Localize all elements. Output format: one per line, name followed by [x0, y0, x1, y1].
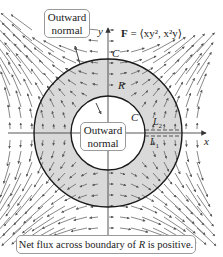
field-arrow	[197, 140, 198, 148]
field-arrow	[13, 217, 32, 234]
field-arrow	[197, 151, 200, 164]
field-arrow	[48, 53, 65, 63]
field-arrow	[186, 34, 205, 52]
x-axis-label: x	[204, 136, 209, 147]
field-arrow	[14, 206, 32, 225]
field-arrow	[186, 217, 205, 235]
field-arrow	[31, 69, 43, 85]
field-arrow	[52, 65, 65, 74]
field-arrow	[1, 13, 21, 30]
field-arrow	[5, 87, 10, 107]
field-arrow	[30, 184, 43, 201]
field-arrow	[164, 73, 175, 86]
l1-subscript: 1	[156, 142, 160, 150]
field-arrow	[175, 206, 194, 224]
field-arrow	[9, 140, 10, 148]
field-arrow	[76, 206, 87, 209]
outer-normal-line2: normal	[45, 24, 89, 37]
inner-normal-line2: normal	[81, 137, 125, 150]
field-arrow	[120, 217, 129, 218]
field-arrow	[34, 173, 43, 187]
field-arrow	[186, 151, 189, 162]
field-arrow	[0, 184, 10, 207]
field-arrow	[31, 140, 32, 147]
field-arrow	[74, 217, 87, 220]
field-arrow	[28, 94, 33, 107]
field-arrow	[120, 228, 131, 229]
field-arrow	[23, 173, 33, 191]
field-arrow	[164, 37, 185, 52]
field-arrow	[197, 90, 202, 107]
field-arrow	[120, 51, 129, 52]
field-arrow	[4, 206, 21, 226]
field-arrow	[142, 45, 160, 53]
field-arrow	[153, 195, 167, 205]
field-arrow	[42, 184, 54, 196]
field-arrow	[88, 228, 98, 229]
field-arrow	[11, 15, 32, 30]
outer-curve-label: C	[112, 48, 119, 59]
field-arrow	[0, 206, 10, 227]
field-arrow	[175, 68, 187, 85]
field-arrow	[16, 91, 21, 107]
field-arrow	[58, 217, 76, 224]
field-arrow	[131, 48, 144, 52]
inner-normal-callout: Outward normal	[80, 122, 126, 151]
field-arrow	[14, 44, 32, 63]
field-arrow	[197, 206, 214, 226]
field-arrow	[175, 195, 193, 214]
field-arrow	[63, 57, 77, 63]
field-arrow	[30, 151, 33, 162]
caption-box: Net flux across boundary of R is positiv…	[16, 235, 196, 254]
inner-normal-line1: Outward	[81, 124, 125, 137]
caption-after: is positive.	[145, 239, 193, 250]
field-arrow	[186, 140, 187, 147]
field-formula: F = ⟨xy², x²y⟩	[121, 28, 182, 39]
field-arrow	[153, 64, 166, 74]
region-label: R	[118, 80, 125, 91]
field-arrow	[131, 228, 148, 232]
field-arrow	[30, 109, 32, 118]
field-arrow	[175, 184, 188, 202]
field-arrow	[186, 108, 188, 118]
field-arrow	[24, 206, 43, 223]
outer-normal-callout: Outward normal	[44, 9, 90, 38]
field-symbol: F	[121, 27, 128, 39]
field-arrow	[164, 47, 184, 63]
field-arrow	[153, 52, 170, 63]
field-arrow	[38, 195, 54, 209]
field-arrow	[90, 217, 98, 218]
inner-curve-label: C	[131, 112, 138, 123]
field-arrow	[5, 43, 21, 63]
field-arrow	[197, 228, 216, 246]
field-arrow	[18, 151, 21, 164]
field-arrow	[186, 206, 204, 225]
field-arrow	[24, 79, 32, 96]
field-arrow	[26, 55, 43, 74]
field-arrow	[90, 51, 98, 52]
field-expression: = ⟨xy², x²y⟩	[128, 27, 182, 39]
field-arrow	[19, 107, 21, 118]
field-arrow	[59, 45, 76, 52]
field-arrow	[13, 34, 32, 52]
field-arrow	[12, 24, 32, 41]
field-arrow	[2, 23, 21, 41]
field-arrow	[175, 55, 192, 75]
field-arrow	[164, 184, 176, 197]
field-arrow	[0, 12, 10, 30]
field-arrow	[47, 206, 65, 217]
field-arrow	[197, 162, 203, 180]
field-arrow	[197, 33, 215, 52]
field-arrow	[20, 140, 21, 147]
field-arrow	[51, 195, 65, 205]
segment-l2-label: L2	[153, 117, 162, 130]
field-arrow	[15, 162, 21, 180]
y-axis-label: y	[98, 26, 103, 37]
field-arrow	[24, 45, 43, 63]
field-arrow	[3, 33, 21, 52]
caption-before: Net flux across boundary of	[19, 239, 139, 250]
field-arrow	[197, 217, 215, 236]
field-arrow	[16, 54, 32, 75]
field-arrow	[186, 44, 203, 63]
field-arrow	[164, 217, 186, 231]
